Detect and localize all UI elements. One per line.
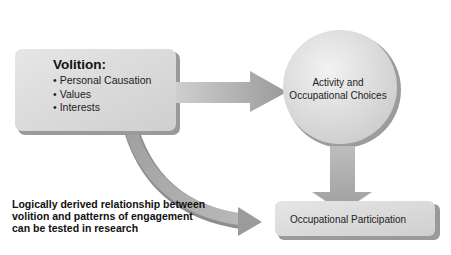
- activity-choices-label: Activity and Occupational Choices: [268, 76, 408, 102]
- volition-item-interests: Interests: [53, 101, 151, 115]
- occupational-participation-label: Occupational Participation: [278, 214, 418, 225]
- volition-list: Personal Causation Values Interests: [53, 74, 151, 115]
- activity-choices-line1: Activity and: [268, 76, 408, 89]
- volition-title: Volition:: [53, 57, 151, 72]
- activity-choices-line2: Occupational Choices: [268, 89, 408, 102]
- volition-content: Volition: Personal Causation Values Inte…: [53, 57, 151, 115]
- volition-item-personal-causation: Personal Causation: [53, 74, 151, 88]
- diagram-canvas: Volition: Personal Causation Values Inte…: [0, 0, 451, 255]
- volition-item-values: Values: [53, 88, 151, 102]
- research-note: Logically derived relationship between v…: [12, 198, 212, 234]
